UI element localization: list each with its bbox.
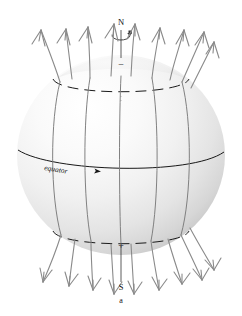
south-pole-label: S	[119, 282, 124, 292]
north-sign-label: −	[118, 59, 124, 70]
south-sign-label: +	[118, 240, 124, 251]
figure-caption: a	[119, 296, 123, 305]
north-arrowheads	[32, 24, 219, 58]
magnetic-field-diagram: N − + S equator a	[0, 0, 242, 316]
north-pole-label: N	[118, 17, 124, 27]
figure-container: N − + S equator a	[0, 0, 242, 316]
